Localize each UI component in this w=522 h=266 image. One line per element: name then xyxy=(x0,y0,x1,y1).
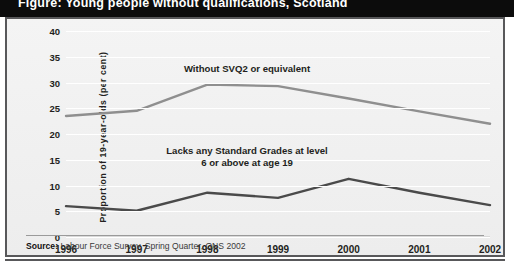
source-label: Source: xyxy=(26,241,58,251)
gridline xyxy=(66,134,490,135)
annotation-without-svq2: Without SVQ2 or equivalent xyxy=(137,63,357,75)
y-axis-tick-label: 35 xyxy=(49,51,60,62)
source-divider xyxy=(26,235,484,236)
x-axis-tick-label: 2000 xyxy=(338,244,360,255)
gridline xyxy=(66,83,490,84)
gridline xyxy=(66,211,490,212)
page-title: Figure: Young people without qualificati… xyxy=(18,0,348,10)
gridline xyxy=(66,108,490,109)
y-axis-tick-label: 40 xyxy=(49,26,60,37)
chart-figure: Figure: Young people without qualificati… xyxy=(0,0,522,266)
x-axis-tick-label: 2001 xyxy=(408,244,430,255)
x-axis-tick-label: 1999 xyxy=(267,244,289,255)
x-axis-tick-label: 2002 xyxy=(479,244,501,255)
gridline xyxy=(66,186,490,187)
y-axis-tick-label: 30 xyxy=(49,77,60,88)
y-axis-tick-label: 20 xyxy=(49,129,60,140)
annotation-lacks-standard-grades: Lacks any Standard Grades at level 6 or … xyxy=(127,145,367,170)
title-band: Figure: Young people without qualificati… xyxy=(0,0,514,17)
y-axis-tick-label: 15 xyxy=(49,154,60,165)
series-line xyxy=(66,85,490,124)
source-text: Labour Force Survey, Spring Quarter, ONS… xyxy=(58,241,246,251)
series-line xyxy=(66,179,490,211)
y-axis-tick-label: 25 xyxy=(49,103,60,114)
y-axis-tick-label: 10 xyxy=(49,180,60,191)
bottom-rule xyxy=(5,259,505,261)
gridline xyxy=(66,237,490,238)
source-note: Source: Labour Force Survey, Spring Quar… xyxy=(26,241,246,251)
plot-area: 0510152025303540199619971998199920002001… xyxy=(66,31,490,237)
gridline xyxy=(66,31,490,32)
chart-panel: Proportion of 19-year-olds (per cent) 05… xyxy=(5,17,505,257)
gridline xyxy=(66,57,490,58)
y-axis-tick-label: 5 xyxy=(55,206,60,217)
